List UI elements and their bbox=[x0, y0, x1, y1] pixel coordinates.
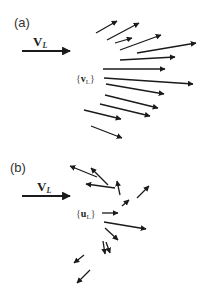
vector-arrow bbox=[74, 255, 84, 263]
mean-velocity-label-b: VL bbox=[37, 179, 51, 195]
fluctuation-arrows-b bbox=[70, 166, 149, 283]
vector-arrow bbox=[96, 21, 117, 33]
vector-arrow bbox=[137, 186, 149, 198]
vector-arrow bbox=[104, 222, 146, 229]
velocity-arrows-a bbox=[84, 21, 196, 138]
vector-arrow bbox=[91, 126, 122, 138]
vector-arrow bbox=[86, 184, 115, 188]
vector-arrow bbox=[120, 35, 161, 50]
vector-arrow bbox=[137, 43, 196, 53]
vector-arrow bbox=[91, 168, 108, 185]
vector-arrow bbox=[77, 270, 90, 283]
vector-arrow bbox=[84, 110, 121, 119]
panel-a-label: (a) bbox=[14, 15, 30, 30]
fluctuation-set-label-b: {uL} bbox=[76, 208, 95, 221]
velocity-diagram: (a) VL {vL} (b) VL {uL} bbox=[0, 0, 207, 295]
panel-b-label: (b) bbox=[10, 160, 26, 175]
mean-velocity-subscript: L bbox=[45, 186, 51, 195]
vector-arrow bbox=[104, 78, 193, 84]
vector-arrow bbox=[115, 38, 132, 43]
velocity-set-label-a: {vL} bbox=[76, 73, 95, 86]
vector-arrow bbox=[117, 181, 120, 195]
vector-arrow bbox=[70, 166, 97, 177]
vector-arrow bbox=[106, 242, 110, 253]
vector-arrow bbox=[105, 228, 118, 240]
vector-arrow bbox=[122, 200, 129, 206]
vector-arrow bbox=[120, 57, 175, 60]
vector-arrow bbox=[105, 95, 158, 108]
vector-arrow bbox=[103, 241, 105, 254]
vector-arrow bbox=[107, 23, 139, 40]
panel-b: (b) VL {uL} bbox=[10, 160, 149, 283]
mean-velocity-label-a: VL bbox=[33, 34, 47, 50]
vector-arrow bbox=[106, 84, 164, 94]
panel-a: (a) VL {vL} bbox=[14, 15, 196, 138]
mean-velocity-subscript: L bbox=[41, 41, 47, 50]
vector-arrow bbox=[100, 104, 150, 116]
